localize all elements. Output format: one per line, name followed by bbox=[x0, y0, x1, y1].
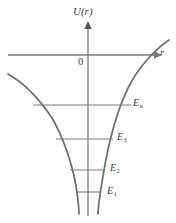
energy-level-label-E3: E3 bbox=[117, 132, 126, 142]
origin-label: 0 bbox=[78, 57, 83, 68]
vertical-axis-arrowhead bbox=[84, 21, 91, 29]
horizontal-axis-group bbox=[8, 51, 162, 59]
energy-subscript-E1: 1 bbox=[113, 190, 116, 197]
horizontal-axis-label: r bbox=[160, 48, 164, 58]
energy-level-label-E1: E1 bbox=[107, 186, 116, 196]
potential-well-diagram bbox=[0, 0, 176, 223]
potential-well-figure: U(r) r 0 En E3 E2 E1 bbox=[0, 0, 176, 223]
vertical-axis-title: U(r) bbox=[73, 6, 93, 17]
energy-subscript-E2: 2 bbox=[116, 167, 119, 174]
energy-subscript-En: n bbox=[139, 102, 142, 109]
energy-level-label-En: En bbox=[133, 98, 142, 108]
potential-curve-left-branch bbox=[8, 74, 79, 214]
vertical-axis-group bbox=[84, 21, 91, 216]
energy-subscript-E3: 3 bbox=[123, 136, 126, 143]
energy-level-label-E2: E2 bbox=[110, 163, 119, 173]
